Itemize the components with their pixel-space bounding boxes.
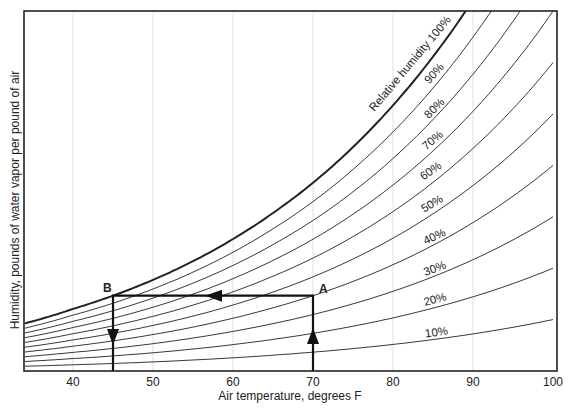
process-line [113,296,313,371]
rh-curve-50 [25,114,553,347]
rh-label-60: 60% [418,159,444,182]
rh-label-80: 80% [422,96,447,121]
x-tick-60: 60 [226,375,240,389]
x-tick-40: 40 [66,375,80,389]
rh-curve-100 [25,0,553,323]
y-axis-label: Humidity, pounds of water vapor per poun… [8,71,22,330]
arrow-left-icon [205,290,222,302]
rh-label-30: 30% [422,259,448,278]
x-tick-100: 100 [543,375,563,389]
plot-frame [24,11,557,371]
x-tick-80: 80 [386,375,400,389]
rh-curve-90 [25,0,553,328]
x-tick-labels: 405060708090100 [66,375,563,389]
rh-curves [25,0,553,366]
rh-label-40: 40% [421,226,447,247]
point-b-label: B [103,281,112,295]
psychrometric-chart: Relative humidity 100%90%80%70%60%50%40%… [0,0,572,411]
rh-label-70: 70% [420,128,445,152]
x-tick-50: 50 [146,375,160,389]
rh-label-10: 10% [424,324,448,339]
arrow-down-icon [107,329,119,345]
rh-label-90: 90% [422,61,446,86]
x-axis-label: Air temperature, degrees F [218,389,361,403]
rh-label-50: 50% [419,193,445,215]
x-tick-90: 90 [466,375,480,389]
x-tick-70: 70 [306,375,320,389]
point-a-label: A [319,282,328,296]
rh-curve-40 [25,165,553,352]
arrow-up-icon [307,328,319,344]
rh-curve-10 [25,320,553,367]
